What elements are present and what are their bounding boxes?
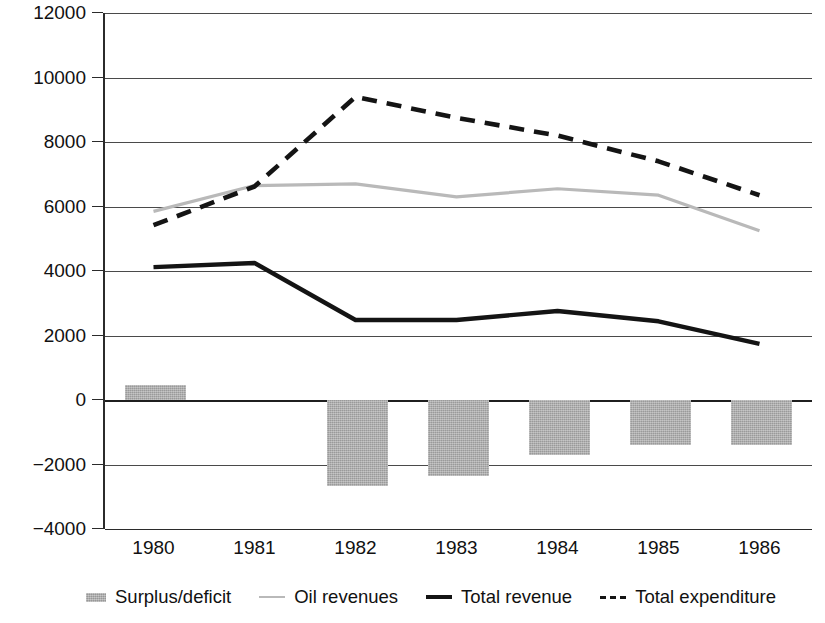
- legend-label-total-expenditure: Total expenditure: [635, 586, 776, 608]
- y-axis-tick-mark: [92, 528, 103, 529]
- y-axis-tick-mark: [92, 206, 103, 207]
- bar-1986: [731, 400, 792, 445]
- x-axis-tick-label: 1982: [334, 537, 376, 559]
- bar-1985: [630, 400, 691, 445]
- chart-figure: 120001000080006000400020000−2000−4000 19…: [0, 0, 825, 623]
- y-axis-tick-label: 12000: [33, 2, 86, 24]
- y-axis-tick-mark: [92, 141, 103, 142]
- legend-item-total-expenditure: Total expenditure: [600, 583, 776, 611]
- y-axis-tick-label: 10000: [33, 67, 86, 89]
- gridline: [105, 336, 812, 337]
- legend-bar-swatch-icon: [86, 593, 106, 602]
- gridline: [105, 207, 812, 208]
- legend-label-surplus-deficit: Surplus/deficit: [115, 586, 231, 608]
- y-axis-tick-mark: [92, 399, 103, 400]
- gridline: [105, 142, 812, 143]
- legend-line-solid-swatch-icon: [426, 595, 452, 599]
- x-axis-tick-label: 1986: [738, 537, 780, 559]
- x-axis-tick-label: 1980: [132, 537, 174, 559]
- bar-1984: [529, 400, 590, 455]
- x-axis-tick-label: 1983: [435, 537, 477, 559]
- y-axis-tick-label: −2000: [33, 454, 86, 476]
- y-axis-tick-mark: [92, 77, 103, 78]
- chart-legend: Surplus/deficit Oil revenues Total reven…: [86, 582, 816, 612]
- y-axis-tick-mark: [92, 464, 103, 465]
- legend-line-dashed-swatch-icon: [600, 596, 626, 599]
- bar-1983: [428, 400, 489, 476]
- legend-item-oil-revenues: Oil revenues: [259, 583, 398, 611]
- y-axis-tick-label: −4000: [33, 518, 86, 540]
- legend-item-surplus-deficit: Surplus/deficit: [86, 583, 231, 611]
- y-axis-tick-label: 6000: [44, 196, 86, 218]
- legend-line-light-swatch-icon: [259, 596, 285, 598]
- gridline: [105, 13, 812, 14]
- y-axis-tick-label: 4000: [44, 260, 86, 282]
- bar-1982: [327, 400, 388, 486]
- x-axis-tick-label: 1981: [233, 537, 275, 559]
- plot-area: [103, 13, 810, 529]
- gridline: [105, 78, 812, 79]
- x-axis-tick-label: 1984: [536, 537, 578, 559]
- y-axis-tick-mark: [92, 335, 103, 336]
- y-axis-tick-mark: [92, 12, 103, 13]
- legend-label-total-revenue: Total revenue: [461, 586, 572, 608]
- y-axis-tick-label: 8000: [44, 131, 86, 153]
- gridline: [105, 529, 812, 530]
- bar-1980: [125, 385, 186, 400]
- legend-label-oil-revenues: Oil revenues: [294, 586, 398, 608]
- x-axis-tick-label: 1985: [637, 537, 679, 559]
- y-axis-labels: 120001000080006000400020000−2000−4000: [0, 0, 86, 623]
- y-axis-tick-mark: [92, 270, 103, 271]
- y-axis-tick-label: 2000: [44, 325, 86, 347]
- gridline: [105, 271, 812, 272]
- legend-item-total-revenue: Total revenue: [426, 583, 572, 611]
- y-axis-tick-label: 0: [75, 389, 86, 411]
